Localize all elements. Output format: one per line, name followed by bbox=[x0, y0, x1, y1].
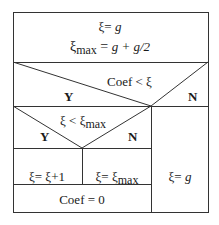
xi-equals-xi: ξ= ξ bbox=[96, 169, 118, 184]
xi-equals: ξ= bbox=[169, 169, 185, 184]
inner-no-action: ξ= ξmax bbox=[96, 170, 139, 186]
max-subscript: max bbox=[76, 43, 97, 57]
max-subscript: max bbox=[85, 117, 106, 131]
init-xi-max: ξmax = g + g/2 bbox=[70, 40, 150, 56]
inner-yes-action: ξ= ξ+1 bbox=[29, 170, 65, 183]
g-plus-half-g: g + g/2 bbox=[112, 39, 150, 54]
outer-no-action: ξ= g bbox=[169, 170, 192, 183]
inner-no-label: N bbox=[128, 130, 137, 143]
g-value: g bbox=[115, 19, 122, 34]
equals: = bbox=[104, 19, 115, 34]
outer-yes-label: Y bbox=[64, 90, 73, 103]
outer-condition-text: Coef < ξ bbox=[107, 75, 152, 88]
g-value: g bbox=[185, 169, 192, 184]
inner-condition-text: ξ < ξmax bbox=[60, 114, 106, 130]
init-xi-equals-g: ξ= g bbox=[99, 20, 122, 33]
outer-no-label: N bbox=[188, 90, 197, 103]
coef-zero-action: Coef = 0 bbox=[59, 193, 105, 206]
max-subscript: max bbox=[118, 173, 139, 187]
inner-yes-label: Y bbox=[40, 130, 49, 143]
equals: = bbox=[97, 39, 112, 54]
inner-cond-pre: ξ < ξ bbox=[60, 113, 85, 128]
